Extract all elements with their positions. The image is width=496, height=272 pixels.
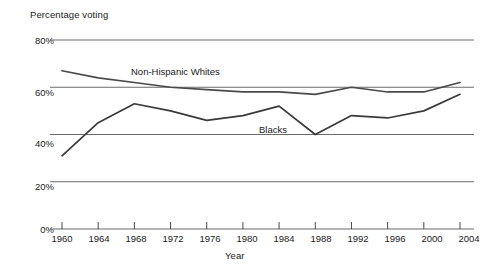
plot-area	[0, 0, 496, 272]
gridlines-group	[50, 40, 474, 229]
data-series-group	[62, 71, 460, 156]
voter-turnout-line-chart: Percentage voting Year 80% 60% 40% 20% 0…	[0, 0, 496, 272]
series-line-non-hispanic-whites	[62, 71, 460, 95]
series-line-blacks	[62, 94, 460, 155]
x-axis-ticks-group	[62, 222, 460, 229]
